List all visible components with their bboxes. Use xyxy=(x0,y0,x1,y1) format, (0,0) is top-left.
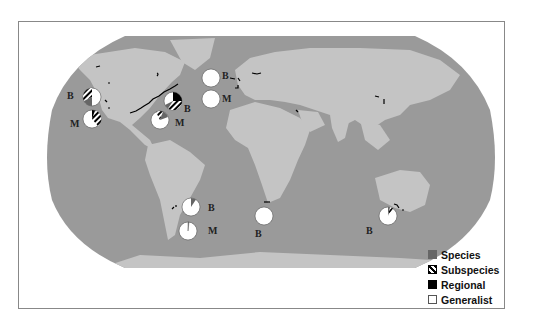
label-africa-b: B xyxy=(255,228,262,239)
pie-wna-m xyxy=(83,110,101,128)
legend-item-subspecies: Subspecies xyxy=(428,262,499,277)
legend-label: Generalist xyxy=(441,294,492,306)
legend-label: Subspecies xyxy=(441,264,499,276)
pie-africa-b xyxy=(255,207,273,225)
label-sa-b: B xyxy=(208,202,215,213)
label-ena-b: B xyxy=(184,103,191,114)
legend-item-generalist: Generalist xyxy=(428,292,499,307)
legend-label: Species xyxy=(441,249,481,261)
generalist-swatch-icon xyxy=(428,295,437,304)
pie-europe-m xyxy=(202,90,220,108)
pie-sa-b xyxy=(182,198,200,216)
species-swatch-icon xyxy=(428,250,437,259)
legend-label: Regional xyxy=(441,279,485,291)
label-wna-m: M xyxy=(70,118,79,129)
pie-sa-m xyxy=(179,222,197,240)
label-europe-m: M xyxy=(222,93,231,104)
pie-europe-b xyxy=(202,69,220,87)
subspecies-swatch-icon xyxy=(428,265,437,274)
pie-australia-b xyxy=(379,207,397,225)
legend-item-regional: Regional xyxy=(428,277,499,292)
regional-swatch-icon xyxy=(428,280,437,289)
pie-ena-m xyxy=(151,111,169,129)
label-sa-m: M xyxy=(208,225,217,236)
label-europe-b: B xyxy=(222,70,229,81)
label-ena-m: M xyxy=(175,117,184,128)
label-wna-b: B xyxy=(67,90,74,101)
legend-item-species: Species xyxy=(428,247,499,262)
pie-wna-b xyxy=(83,88,101,106)
label-australia-b: B xyxy=(366,225,373,236)
legend: Species Subspecies Regional Generalist xyxy=(428,247,499,307)
pie-ena-b xyxy=(164,92,182,110)
